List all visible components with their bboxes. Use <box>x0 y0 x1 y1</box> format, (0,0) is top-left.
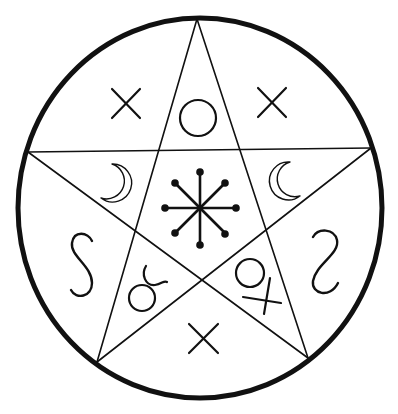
cross-icon <box>258 88 286 117</box>
pentagram-canvas <box>0 0 398 414</box>
reversed-s-curve-icon <box>313 231 338 293</box>
cross-icon <box>189 324 218 353</box>
circle-with-cross-icon <box>236 259 281 314</box>
circle-icon <box>180 100 216 136</box>
cross-icon <box>112 89 140 118</box>
crescent-moon-icon <box>269 162 300 200</box>
pentagram-diagram: Pentagram seal with planetary and alchem… <box>0 0 398 414</box>
taurus-icon <box>129 266 167 311</box>
s-curve-icon <box>71 234 92 296</box>
crescent-moon-icon <box>101 164 132 202</box>
